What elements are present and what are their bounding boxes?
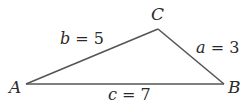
side-a-value: 3	[229, 38, 239, 57]
side-a-variable: a	[196, 38, 206, 57]
side-label-b: b = 5	[60, 29, 104, 48]
side-c-value: 7	[141, 85, 151, 104]
vertex-label-a: A	[7, 77, 21, 97]
side-c-equals: =	[117, 85, 141, 104]
side-c-variable: c	[108, 85, 117, 104]
side-b-value: 5	[94, 29, 104, 48]
side-label-a: a = 3	[196, 38, 239, 57]
triangle-diagram: A B C b = 5 a = 3 c = 7	[0, 0, 252, 111]
side-label-c: c = 7	[108, 85, 151, 104]
side-b-variable: b	[60, 29, 70, 48]
vertex-label-b: B	[227, 77, 241, 97]
side-a-equals: =	[206, 38, 230, 57]
side-b-equals: =	[70, 29, 94, 48]
vertex-label-c: C	[151, 4, 164, 24]
